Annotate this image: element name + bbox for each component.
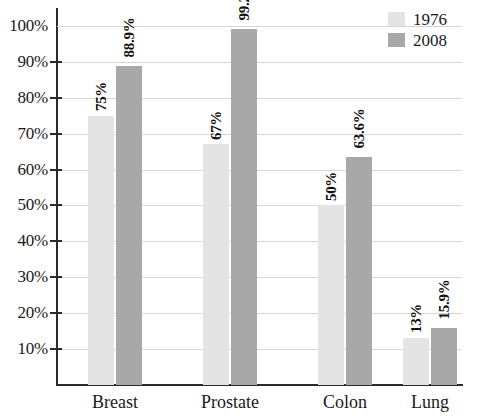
y-axis-tick-label: 70% bbox=[0, 125, 48, 142]
bar-value-label: 13% bbox=[408, 304, 425, 333]
y-axis-tick-label: 90% bbox=[0, 53, 48, 70]
y-axis-tick-label: 10% bbox=[0, 340, 48, 357]
y-axis-tick bbox=[50, 204, 62, 206]
bar-breast-1976 bbox=[88, 116, 114, 385]
y-axis-tick bbox=[50, 312, 62, 314]
bar-value-label: 88.9% bbox=[121, 18, 138, 58]
y-axis-tick-label: 80% bbox=[0, 89, 48, 106]
bar-value-label: 75% bbox=[93, 82, 110, 111]
bar-colon-1976 bbox=[318, 205, 344, 385]
bar-value-label: 63.6% bbox=[351, 109, 368, 149]
y-axis-tick-label: 20% bbox=[0, 304, 48, 321]
bar-group: 50%63.6% bbox=[318, 8, 372, 385]
bar-breast-2008 bbox=[116, 66, 142, 385]
x-axis-category-label-prostate: Prostate bbox=[173, 392, 287, 412]
bar-value-label: 15.9% bbox=[436, 280, 453, 320]
bar-value-label: 67% bbox=[208, 110, 225, 139]
y-axis-tick bbox=[50, 169, 62, 171]
y-axis-tick bbox=[50, 276, 62, 278]
y-axis-tick bbox=[50, 348, 62, 350]
y-axis-tick-label: 60% bbox=[0, 161, 48, 178]
y-axis-labels: 10%20%30%40%50%60%70%80%90%100% bbox=[0, 0, 48, 418]
bar-value-label: 99.2% bbox=[236, 0, 253, 21]
bar-group: 75%88.9% bbox=[88, 8, 142, 385]
bar-prostate-1976 bbox=[203, 144, 229, 385]
bar-colon-2008 bbox=[346, 157, 372, 385]
x-axis-category-label-breast: Breast bbox=[58, 392, 172, 412]
y-axis-tick-label: 100% bbox=[0, 17, 48, 34]
bar-prostate-2008 bbox=[231, 29, 257, 385]
y-axis-tick bbox=[50, 97, 62, 99]
bar-group: 67%99.2% bbox=[203, 8, 257, 385]
bar-value-label: 50% bbox=[323, 172, 340, 201]
y-axis-tick-label: 50% bbox=[0, 196, 48, 213]
bar-lung-1976 bbox=[403, 338, 429, 385]
bar-group: 13%15.9% bbox=[403, 8, 457, 385]
y-axis-tick bbox=[50, 240, 62, 242]
y-axis-tick-label: 40% bbox=[0, 232, 48, 249]
bar-lung-2008 bbox=[431, 328, 457, 385]
bar-chart: 10%20%30%40%50%60%70%80%90%100% 19762008… bbox=[0, 0, 484, 418]
y-axis-tick bbox=[50, 133, 62, 135]
y-axis-tick bbox=[50, 61, 62, 63]
y-axis-tick-label: 30% bbox=[0, 268, 48, 285]
x-axis-category-label-lung: Lung bbox=[373, 392, 484, 412]
